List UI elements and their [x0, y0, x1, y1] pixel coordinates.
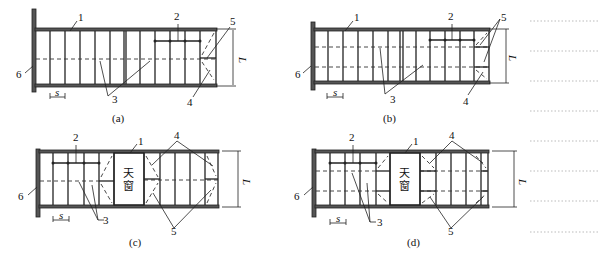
panel-c: 天 窗 1 2 4 5 3 6: [18, 129, 253, 249]
skylight-label-1: 天: [399, 167, 410, 180]
label-1: 1: [78, 11, 84, 23]
label-2: 2: [448, 10, 454, 22]
label-2: 2: [73, 131, 79, 143]
brace-upper: [202, 33, 214, 55]
label-6: 6: [18, 190, 24, 202]
label-5: 5: [448, 225, 454, 237]
label-5: 5: [501, 11, 507, 23]
vertical-members: [328, 31, 489, 81]
label-3: 3: [103, 214, 109, 226]
spacing-dim-s: s: [336, 212, 340, 224]
caption-b: (b): [383, 112, 396, 125]
label-1: 1: [354, 11, 360, 23]
label-5: 5: [171, 225, 177, 237]
end-post: [32, 9, 36, 92]
label-3: 3: [377, 216, 383, 228]
vertical-members: [50, 31, 216, 84]
skylight-label-2: 窗: [123, 179, 134, 193]
label-6: 6: [294, 190, 300, 202]
span-dim-L: L: [241, 178, 253, 185]
label-6: 6: [295, 68, 301, 80]
faint-note-lines: [530, 21, 600, 232]
vertical-members: [53, 153, 218, 205]
truss-bracing-figure: 1 2 5 4 3 6 L s (a): [0, 0, 603, 259]
top-chord: [35, 28, 217, 31]
label-3: 3: [112, 93, 118, 105]
span-dim-L: L: [507, 54, 519, 61]
skylight-opening: 天 窗: [399, 167, 410, 193]
label-1: 1: [138, 135, 144, 147]
panel-d: 天 窗 1 2 4 5 3 6: [294, 129, 529, 249]
label-3: 3: [390, 93, 396, 105]
top-chord: [314, 28, 490, 31]
end-post: [311, 22, 315, 90]
brace-lower: [202, 62, 214, 80]
label-5: 5: [230, 15, 236, 27]
label-6: 6: [16, 68, 22, 80]
bottom-chord: [35, 84, 217, 87]
label-2: 2: [349, 131, 355, 143]
label-4: 4: [449, 129, 455, 141]
label-2: 2: [174, 10, 180, 22]
caption-d: (d): [407, 236, 420, 249]
skylight-opening: 天 窗: [123, 167, 134, 193]
spacing-dim-s: s: [333, 86, 337, 98]
tie-members: [154, 40, 202, 43]
skylight-label-2: 窗: [399, 179, 410, 193]
label-4: 4: [463, 95, 469, 107]
label-1: 1: [413, 135, 419, 147]
panel-a: 1 2 5 4 3 6 L s (a): [16, 9, 249, 125]
skylight-label-1: 天: [123, 167, 134, 180]
spacing-dim-s: s: [59, 209, 63, 221]
caption-c: (c): [129, 236, 142, 249]
caption-a: (a): [112, 112, 125, 125]
spacing-dim-s: s: [55, 86, 59, 98]
cross-braces: [378, 156, 486, 203]
label-4: 4: [187, 96, 193, 108]
label-4: 4: [174, 129, 180, 141]
span-dim-L: L: [517, 178, 529, 185]
panel-b: 1 2 5 4 3 6 L s (b): [295, 10, 519, 125]
span-dim-L: L: [237, 56, 249, 63]
